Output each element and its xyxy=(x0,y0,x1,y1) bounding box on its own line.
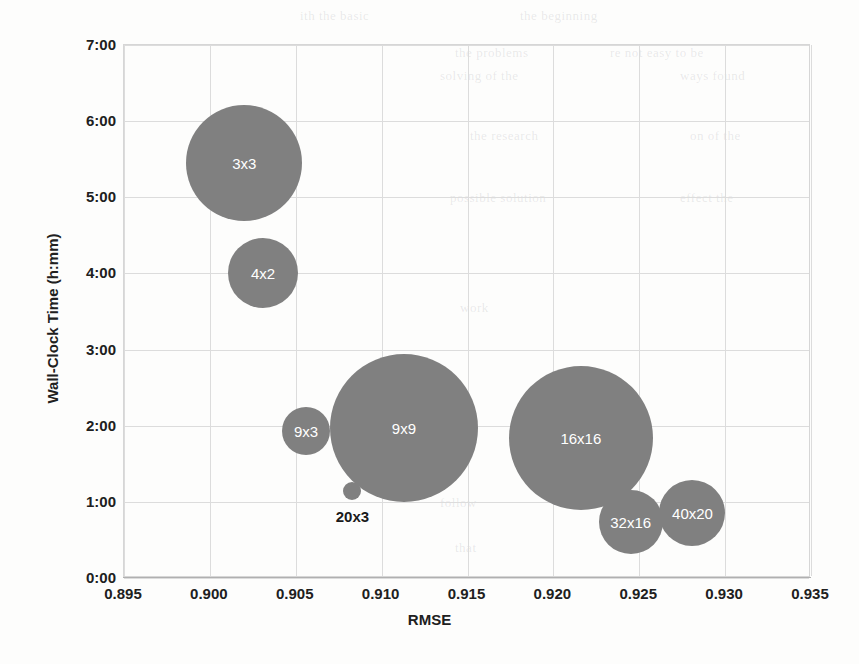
gridline-vertical xyxy=(296,45,297,576)
x-axis-tick-label: 0.905 xyxy=(250,585,340,602)
bubble-label: 16x16 xyxy=(560,429,601,446)
x-axis-tick-label: 0.935 xyxy=(765,585,855,602)
x-axis-line xyxy=(123,577,811,578)
y-axis-tick-label: 4:00 xyxy=(56,264,116,281)
bubble-label: 20x3 xyxy=(336,508,369,525)
x-axis-tick-label: 0.925 xyxy=(593,585,683,602)
y-axis-title: Wall-Clock Time (h:mm) xyxy=(44,189,61,449)
bleed-text: the beginning xyxy=(520,8,598,24)
gridline-vertical xyxy=(811,45,812,576)
x-axis-tick-label: 0.930 xyxy=(679,585,769,602)
bubble-label: 32x16 xyxy=(610,513,651,530)
y-axis-tick-label: 6:00 xyxy=(56,112,116,129)
gridline-horizontal xyxy=(124,45,809,46)
y-axis-tick-label: 3:00 xyxy=(56,340,116,357)
gridline-horizontal xyxy=(124,273,809,274)
x-axis-tick-label: 0.915 xyxy=(422,585,512,602)
x-axis-tick-label: 0.920 xyxy=(507,585,597,602)
bleed-text: ith the basic xyxy=(300,8,369,24)
bubble-label: 4x2 xyxy=(251,264,275,281)
y-axis-tick-label: 7:00 xyxy=(56,36,116,53)
x-axis-tick-label: 0.900 xyxy=(164,585,254,602)
gridline-vertical xyxy=(468,45,469,576)
bubble-label: 3x3 xyxy=(232,155,256,172)
y-axis-tick-label: 2:00 xyxy=(56,416,116,433)
gridline-vertical xyxy=(725,45,726,576)
y-axis-tick-label: 5:00 xyxy=(56,188,116,205)
bubble-chart: the beginningith the basicthe problemsre… xyxy=(0,0,859,664)
bubble-label: 9x9 xyxy=(392,419,416,436)
bubble-label: 40x20 xyxy=(672,504,713,521)
gridline-vertical xyxy=(124,45,125,576)
x-axis-tick-label: 0.895 xyxy=(78,585,168,602)
y-axis-tick-label: 1:00 xyxy=(56,492,116,509)
bubble-label: 9x3 xyxy=(294,423,318,440)
x-axis-tick-label: 0.910 xyxy=(336,585,426,602)
gridline-horizontal xyxy=(124,578,809,579)
gridline-horizontal xyxy=(124,350,809,351)
x-axis-title: RMSE xyxy=(0,611,859,628)
plot-area: 9x916x163x34x240x2032x169x320x3 xyxy=(123,44,810,577)
y-axis-tick-label: 0:00 xyxy=(56,569,116,586)
bubble-point[interactable] xyxy=(343,482,361,500)
